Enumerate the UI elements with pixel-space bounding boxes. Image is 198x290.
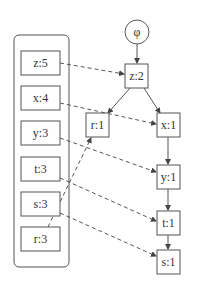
root-label: φ <box>134 25 141 39</box>
header-item-s3: s:3 <box>21 192 60 216</box>
tree-node-label: z:2 <box>129 69 144 83</box>
header-item-t3: t:3 <box>21 157 60 181</box>
tree-node-z2: z:2 <box>125 64 148 88</box>
tree-node-y1: y:1 <box>157 165 180 189</box>
header-item-label: r:3 <box>34 232 47 246</box>
link-y3-y1 <box>60 138 156 172</box>
header-item-r3: r:3 <box>21 227 60 251</box>
header-item-x4: x:4 <box>21 86 60 110</box>
edge-z2-x1 <box>144 88 160 113</box>
tree-node-label: r:1 <box>91 118 104 132</box>
header-item-y3: y:3 <box>21 121 60 145</box>
tree-node-x1: x:1 <box>157 113 180 137</box>
edge-z2-r1 <box>108 88 130 113</box>
link-z5-z2 <box>60 63 124 74</box>
tree-node-label: s:1 <box>161 255 175 269</box>
root-node-phi: φ <box>125 20 149 44</box>
tree-node-label: t:1 <box>162 216 175 230</box>
header-item-label: s:3 <box>33 197 47 211</box>
link-s3-s1 <box>60 213 156 256</box>
fp-tree-diagram: φ z:5 x:4 y:3 t:3 s:3 r:3 z:2 r:1 x:1 y:… <box>0 0 198 290</box>
tree-node-r1: r:1 <box>86 113 109 137</box>
tree-node-t1: t:1 <box>157 211 180 235</box>
header-item-label: z:5 <box>33 56 48 70</box>
tree-node-label: y:1 <box>161 170 176 184</box>
tree-node-s1: s:1 <box>157 250 180 274</box>
header-item-label: x:4 <box>33 91 48 105</box>
tree-node-label: x:1 <box>161 118 176 132</box>
header-item-z5: z:5 <box>21 51 60 75</box>
header-item-label: y:3 <box>33 126 48 140</box>
link-t3-t1 <box>60 178 156 221</box>
header-item-label: t:3 <box>34 162 47 176</box>
